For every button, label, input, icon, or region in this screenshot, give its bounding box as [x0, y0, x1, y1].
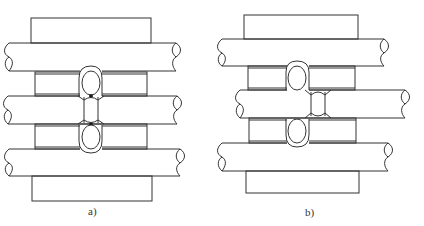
weld-nugget-upper	[79, 66, 102, 98]
bottom-electrode-block	[246, 171, 359, 193]
panel-b-label: b)	[305, 206, 314, 218]
weld-nugget-middle	[78, 95, 104, 126]
weld-nugget-upper	[286, 61, 309, 92]
weld-nugget-middle-offset	[305, 90, 331, 118]
weld-nugget-lower	[79, 125, 102, 155]
weld-nugget-lower	[286, 119, 309, 147]
rod-top	[5, 43, 181, 71]
panel-a	[4, 18, 185, 201]
top-electrode-block	[31, 18, 151, 43]
weld-diagram	[0, 0, 424, 226]
panel-a-label: a)	[88, 205, 97, 217]
bottom-electrode-block	[32, 176, 152, 201]
top-electrode-block	[244, 15, 358, 39]
panel-b	[218, 15, 410, 193]
rod-bottom	[218, 143, 393, 171]
